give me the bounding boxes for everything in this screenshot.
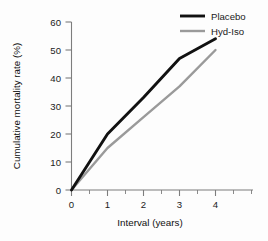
y-tick-label-0: 0: [56, 185, 61, 196]
series-line-placebo: [72, 39, 216, 190]
x-tick-label-2: 2: [141, 199, 146, 210]
x-tick-label-0: 0: [69, 199, 74, 210]
mortality-line-chart: 0 10 20 30 40 50 60 0 1 2 3 4 Interval (…: [0, 0, 268, 241]
x-tick-label-4: 4: [213, 199, 219, 210]
y-tick-label-40: 40: [50, 73, 61, 84]
y-axis-title: Cumulative mortality rate (%): [11, 43, 22, 169]
y-tick-label-20: 20: [50, 129, 61, 140]
x-tick-label-1: 1: [105, 199, 110, 210]
y-tick-label-50: 50: [50, 45, 61, 56]
y-tick-label-60: 60: [50, 17, 61, 28]
legend-label-hyd-iso: Hyd-Iso: [211, 26, 244, 37]
y-tick-label-10: 10: [50, 157, 61, 168]
chart-figure: 0 10 20 30 40 50 60 0 1 2 3 4 Interval (…: [0, 0, 268, 241]
x-tick-label-3: 3: [177, 199, 182, 210]
series-line-hyd-iso: [72, 50, 216, 190]
legend-label-placebo: Placebo: [211, 11, 246, 22]
y-tick-label-30: 30: [50, 101, 61, 112]
x-axis-title: Interval (years): [117, 217, 182, 228]
chart-legend: Placebo Hyd-Iso: [180, 11, 246, 37]
